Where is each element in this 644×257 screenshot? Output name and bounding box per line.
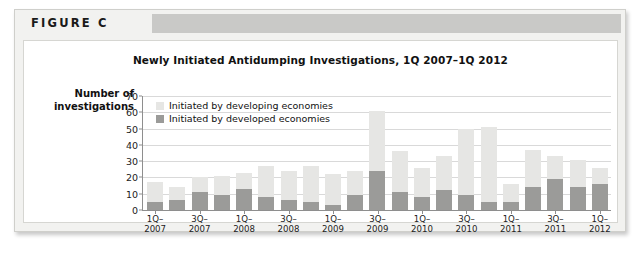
y-axis-tick-label: 0 [132,205,138,216]
legend-swatch-developed-icon [156,115,164,123]
bar-segment-developed [258,197,274,210]
x-axis-tick-label-year: 2007 [189,224,211,234]
bar-segment-developing [281,171,297,200]
bar-segment-developing [481,127,497,202]
bar-segment-developing [258,166,274,197]
bar-segment-developing [169,187,185,200]
bar-stack [481,127,497,210]
bar-segment-developing [369,111,385,171]
bar-segment-developed [392,192,408,210]
bar-segment-developed [192,192,208,210]
bar-stack [458,129,474,210]
x-axis-tick-mark [555,211,556,214]
legend-item-developed: Initiated by developed economies [156,112,333,125]
x-axis-tick-label-year: 2010 [456,224,478,234]
bar-segment-developing [414,168,430,197]
bar-segment-developed [369,171,385,210]
bar-segment-developing [214,176,230,196]
bar-segment-developed [458,195,474,210]
x-axis-tick-label: 1Q–2010 [411,214,433,234]
y-axis-title-line2: investigations [52,101,134,114]
plot-inner: 010203040506070 1Q–20073Q–20071Q–20083Q–… [142,96,611,211]
chart-panel: Newly Initiated Antidumping Investigatio… [23,40,618,223]
bar-segment-developed [281,200,297,210]
plot-area: 010203040506070 1Q–20073Q–20071Q–20083Q–… [142,96,611,211]
bar-segment-developing [436,156,452,190]
x-axis-tick-mark [511,211,512,214]
bar-segment-developed [347,195,363,210]
x-axis-tick-label-quarter: 3Q– [189,214,211,224]
x-axis-tick-mark [600,211,601,214]
bar-segment-developed [214,195,230,210]
x-axis-tick-mark [200,211,201,214]
x-axis-tick-label: 1Q–2009 [322,214,344,234]
bar-stack [236,173,252,210]
x-axis-tick-label: 3Q–2008 [278,214,300,234]
bar-segment-developing [347,171,363,195]
x-axis-tick-label-year: 2009 [367,224,389,234]
x-axis-tick-label-year: 2011 [544,224,566,234]
x-axis-tick-label-quarter: 1Q– [589,214,611,224]
bar-segment-developed [436,190,452,210]
x-axis-tick-label-year: 2010 [411,224,433,234]
x-axis-tick-label-year: 2011 [500,224,522,234]
figure-header-band [152,14,621,33]
bar-stack [325,174,341,210]
x-axis-tick-mark [333,211,334,214]
x-axis-tick-label-quarter: 3Q– [278,214,300,224]
y-axis-title: Number of investigations [52,88,134,113]
legend-swatch-developing-icon [156,102,164,110]
y-axis-tick-label: 30 [126,156,138,167]
x-axis-tick-mark [155,211,156,214]
y-axis-tick-label: 50 [126,123,138,134]
x-axis-tick-mark [244,211,245,214]
bar-stack [369,111,385,210]
x-axis-tick-label-year: 2012 [589,224,611,234]
bar-stack [414,168,430,210]
bar-segment-developing [147,182,163,202]
figure-label: FIGURE C [31,16,109,30]
bar-segment-developing [236,173,252,189]
x-axis-tick-label-year: 2007 [144,224,166,234]
y-axis-tick-label: 40 [126,139,138,150]
x-axis-line [142,210,611,211]
y-axis-tick-label: 60 [126,107,138,118]
legend-item-developing: Initiated by developing economies [156,99,333,112]
bar-segment-developing [458,129,474,196]
bar-segment-developing [570,160,586,188]
bar-segment-developed [147,202,163,210]
bar-segment-developed [169,200,185,210]
bar-segment-developing [325,174,341,205]
bar-segment-developing [192,177,208,192]
x-axis-tick-label-quarter: 1Q– [500,214,522,224]
chart-legend: Initiated by developing economies Initia… [156,99,333,125]
x-axis-tick-label-quarter: 3Q– [456,214,478,224]
x-axis-tick-label-year: 2008 [278,224,300,234]
legend-label-developed: Initiated by developed economies [169,113,330,124]
bar-stack [303,166,319,210]
chart-title: Newly Initiated Antidumping Investigatio… [24,54,617,66]
bar-segment-developed [236,189,252,210]
x-axis-tick-label: 1Q–2008 [233,214,255,234]
bar-segment-developing [547,156,563,179]
figure-frame: FIGURE C Newly Initiated Antidumping Inv… [14,9,626,232]
bar-segment-developed [303,202,319,210]
x-axis-tick-label-year: 2008 [233,224,255,234]
x-axis-tick-label-quarter: 3Q– [544,214,566,224]
bar-segment-developing [392,151,408,192]
x-axis-tick-mark [378,211,379,214]
bar-stack [347,171,363,210]
x-axis-tick-label: 3Q–2011 [544,214,566,234]
bar-segment-developing [592,168,608,184]
x-axis-tick-label-quarter: 3Q– [367,214,389,224]
x-axis-tick-label: 1Q–2011 [500,214,522,234]
bar-segment-developed [570,187,586,210]
bar-stack [592,168,608,210]
bar-stack [503,184,519,210]
bar-segment-developed [592,184,608,210]
bar-stack [147,182,163,210]
y-axis-tick-label: 10 [126,188,138,199]
bar-stack [525,150,541,210]
legend-label-developing: Initiated by developing economies [169,100,333,111]
x-axis-tick-label: 3Q–2009 [367,214,389,234]
